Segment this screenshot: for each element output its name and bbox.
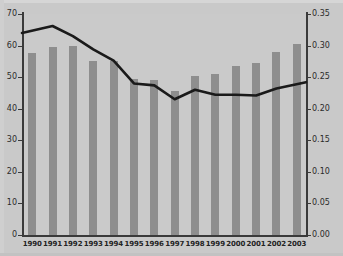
bar (171, 91, 179, 235)
left-tick-label: 30 (0, 136, 17, 144)
bar (150, 80, 158, 235)
bar (272, 52, 280, 235)
right-tick-label: 0.25 (312, 73, 340, 81)
bar (293, 44, 301, 235)
bar (110, 61, 118, 235)
right-tick-label: 0.10 (312, 168, 340, 176)
bar (191, 76, 199, 235)
bar (232, 66, 240, 235)
right-tick-label: 0.30 (312, 42, 340, 50)
left-tick-label: 50 (0, 73, 17, 81)
left-tick-label: 20 (0, 168, 17, 176)
left-tick-label: 70 (0, 10, 17, 18)
bar (211, 74, 219, 235)
x-tick-label: 1992 (63, 240, 83, 248)
bar (69, 46, 77, 235)
x-axis-line (22, 235, 308, 237)
bar (252, 63, 260, 235)
bar (49, 47, 57, 235)
x-tick-label: 1998 (185, 240, 205, 248)
x-tick-label: 1994 (103, 240, 123, 248)
x-tick-label: 1996 (144, 240, 164, 248)
x-tick-label: 2000 (226, 240, 246, 248)
left-tick-mark (18, 235, 23, 236)
x-tick-label: 1999 (205, 240, 225, 248)
bar (89, 61, 97, 235)
right-tick-label: 0.05 (312, 199, 340, 207)
left-tick-label: 60 (0, 42, 17, 50)
x-tick-label: 2001 (246, 240, 266, 248)
bar-series (22, 14, 307, 235)
left-tick-label: 10 (0, 199, 17, 207)
x-tick-label: 1990 (22, 240, 42, 248)
left-tick-label: 0 (0, 231, 17, 239)
right-tick-label: 0.20 (312, 105, 340, 113)
x-tick-label: 2003 (287, 240, 307, 248)
chart-container: 010203040506070 0.000.050.100.150.200.25… (0, 0, 343, 256)
right-tick-label: 0.15 (312, 136, 340, 144)
right-tick-label: 0.35 (312, 10, 340, 18)
bar (130, 79, 138, 235)
x-tick-label: 1991 (42, 240, 62, 248)
x-tick-label: 1997 (165, 240, 185, 248)
left-tick-label: 40 (0, 105, 17, 113)
x-tick-label: 1995 (124, 240, 144, 248)
right-tick-mark (306, 235, 311, 236)
right-tick-label: 0.00 (312, 231, 340, 239)
x-tick-label: 1993 (83, 240, 103, 248)
bar (28, 53, 36, 235)
frame-left-edge (0, 0, 4, 256)
x-tick-label: 2002 (266, 240, 286, 248)
frame-top-edge (0, 0, 343, 3)
